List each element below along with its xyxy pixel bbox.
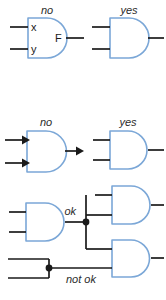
arrow-head-icon: [22, 136, 30, 145]
gate-yes-arrowheads: [93, 131, 164, 169]
verdict-label-yes-2: yes: [118, 116, 137, 128]
ok-fanout-net: [83, 195, 90, 249]
gate-fanout-lower: [49, 240, 164, 277]
gate-no-arrowheads: [5, 131, 84, 172]
pin-label-f: F: [55, 32, 62, 44]
pin-label-y: y: [31, 43, 37, 55]
arrow-head-icon: [76, 147, 84, 156]
not-ok-short-net: [8, 259, 52, 278]
and-gate-shape: [26, 203, 64, 241]
verdict-label-not-ok: not ok: [66, 273, 96, 285]
junction-dot-not-ok: [46, 265, 53, 272]
and-gate-shape: [110, 131, 147, 169]
pin-label-x: x: [31, 21, 37, 33]
verdict-label-no-1: no: [41, 4, 53, 16]
figure-canvas: no x y F yes no y: [0, 0, 166, 300]
and-gate-shape: [112, 186, 150, 224]
and-gate-shape: [110, 18, 149, 58]
junction-dot-ok: [83, 219, 90, 226]
gate-no-pin-labels: [10, 18, 84, 58]
verdict-label-no-2: no: [40, 116, 52, 128]
arrow-head-icon: [22, 159, 30, 168]
verdict-label-ok: ok: [64, 205, 76, 217]
and-gate-shape: [112, 240, 150, 277]
gate-fanout-upper: [86, 186, 164, 224]
verdict-label-yes-1: yes: [119, 4, 138, 16]
gate-yes-pin-labels: [92, 18, 164, 58]
logic-gate-convention-figure: no x y F yes no y: [0, 0, 166, 300]
and-gate-shape: [27, 131, 67, 172]
